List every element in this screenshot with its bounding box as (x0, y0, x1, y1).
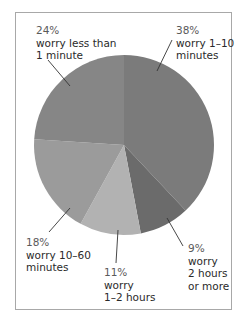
leader-line-18 (49, 208, 70, 232)
label-less-than-1-minute: 24% worry less than 1 minute (36, 24, 117, 62)
description-text: worry 10–60 (26, 249, 91, 262)
leader-line-11 (116, 230, 118, 263)
percent-text: 24% (36, 24, 117, 37)
percent-text: 38% (176, 24, 234, 37)
label-2-hours-or-more: 9% worry 2 hours or more (188, 242, 229, 292)
description-text: worry (104, 279, 155, 292)
leader-line-24 (48, 60, 70, 86)
pie-slices (34, 55, 214, 235)
description-text: minutes (176, 49, 234, 62)
description-text: worry 1–10 (176, 37, 234, 50)
label-1-10-minutes: 38% worry 1–10 minutes (176, 24, 234, 62)
percent-text: 9% (188, 242, 229, 255)
percent-text: 11% (104, 266, 155, 279)
label-10-60-minutes: 18% worry 10–60 minutes (26, 236, 91, 274)
pie-slice (34, 55, 124, 145)
description-text: minutes (26, 261, 91, 274)
percent-text: 18% (26, 236, 91, 249)
description-text: 2 hours (188, 267, 229, 280)
description-text: 1 minute (36, 49, 117, 62)
description-text: worry (188, 255, 229, 268)
label-1-2-hours: 11% worry 1–2 hours (104, 266, 155, 304)
description-text: worry less than (36, 37, 117, 50)
description-text: or more (188, 280, 229, 293)
description-text: 1–2 hours (104, 291, 155, 304)
leader-line-9 (167, 218, 183, 246)
